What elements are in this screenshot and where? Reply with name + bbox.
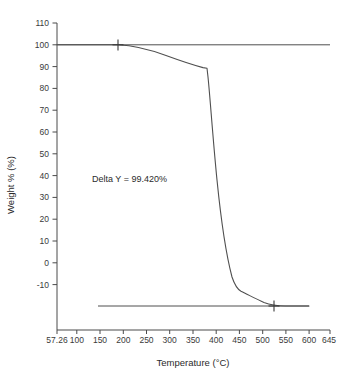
- delta-y-lower-marker: [269, 301, 280, 312]
- y-tick-label-110: 110: [35, 18, 49, 28]
- x-axis-title: Temperature (°C): [157, 357, 230, 368]
- y-tick-label-30: 30: [40, 192, 50, 202]
- x-axis-ticks: [57, 330, 330, 334]
- y-axis: 110 100 90 80 70 60 50 40 30 20 10 0 -10…: [5, 18, 57, 330]
- x-tick-label-200: 200: [116, 335, 130, 345]
- x-tick-label-550: 550: [279, 335, 293, 345]
- x-tick-label-300: 300: [163, 335, 177, 345]
- y-tick-label-70: 70: [40, 105, 50, 115]
- x-tick-label-500: 500: [256, 335, 270, 345]
- x-tick-label-645: 645: [322, 335, 336, 345]
- y-axis-title: Weight % (%): [5, 156, 16, 214]
- delta-y-annotation: Delta Y = 99.420%: [92, 174, 167, 184]
- y-tick-label-100: 100: [35, 40, 49, 50]
- y-tick-label-60: 60: [40, 127, 50, 137]
- x-tick-label-250: 250: [139, 335, 153, 345]
- y-tick-label-40: 40: [40, 171, 50, 181]
- tga-chart-figure: 110 100 90 80 70 60 50 40 30 20 10 0 -10…: [0, 0, 340, 386]
- delta-y-upper-marker: [113, 40, 124, 51]
- x-axis: 57.26 100 150 200 250 300 350 400 450 50…: [46, 330, 336, 368]
- y-tick-label-80: 80: [40, 83, 50, 93]
- chart-canvas: 110 100 90 80 70 60 50 40 30 20 10 0 -10…: [0, 0, 340, 386]
- x-tick-label-57: 57.26: [46, 335, 68, 345]
- y-axis-tick-labels: 110 100 90 80 70 60 50 40 30 20 10 0 -10: [35, 18, 49, 290]
- y-tick-label-10: 10: [40, 236, 50, 246]
- x-tick-label-150: 150: [93, 335, 107, 345]
- y-tick-label-neg10: -10: [37, 280, 50, 290]
- y-tick-label-0: 0: [44, 258, 49, 268]
- y-tick-label-90: 90: [40, 62, 50, 72]
- y-tick-label-50: 50: [40, 149, 50, 159]
- y-tick-label-20: 20: [40, 214, 50, 224]
- x-tick-label-350: 350: [186, 335, 200, 345]
- x-tick-label-450: 450: [232, 335, 246, 345]
- x-tick-label-600: 600: [302, 335, 316, 345]
- y-axis-ticks: [53, 23, 58, 285]
- x-tick-label-400: 400: [209, 335, 223, 345]
- x-tick-label-100: 100: [70, 335, 84, 345]
- x-axis-tick-labels: 57.26 100 150 200 250 300 350 400 450 50…: [46, 335, 336, 345]
